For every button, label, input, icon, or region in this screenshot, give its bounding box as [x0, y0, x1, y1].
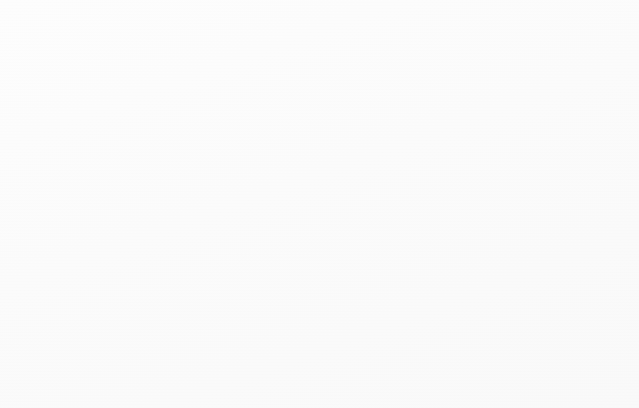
x-tick-label: OK — [295, 353, 408, 371]
bar-slot — [295, 78, 408, 349]
clipped-body-text-line: something for musicians? — [6, 0, 247, 10]
x-tick-label-line: All right — [440, 354, 488, 370]
x-tick-label-line: Interesting and — [77, 354, 173, 370]
x-tick-label-line: Boring — [556, 354, 598, 370]
y-tick-label: 16 — [23, 69, 59, 87]
x-tick-label-line: Good — [220, 354, 255, 370]
y-tick-label: 0 — [23, 340, 59, 358]
y-tick-label: 2 — [23, 306, 59, 324]
y-axis: 1614121086420 — [23, 78, 59, 349]
x-tick-label-line: OK — [341, 354, 362, 370]
y-tick-label: 14 — [23, 103, 59, 121]
x-tick-label: Interesting andenjoyable — [69, 353, 182, 389]
y-tick-label: 8 — [23, 205, 59, 223]
x-tick-label-line: enjoyable — [69, 371, 182, 389]
bar-slot — [182, 78, 295, 349]
x-tick-label: Boring — [520, 353, 633, 371]
x-tick-label: All right — [407, 353, 520, 371]
clipped-body-text: something for musicians? — [0, 0, 639, 11]
bar-slot — [407, 78, 520, 349]
y-tick-label: 4 — [23, 272, 59, 290]
bar-series — [69, 78, 633, 349]
chart-title: Did you find the music workshop ... — [7, 27, 638, 58]
bar[interactable] — [92, 112, 158, 349]
x-axis: Interesting andenjoyableGoodOKAll rightB… — [69, 353, 633, 403]
axis-baseline — [69, 349, 633, 350]
y-tick-label: 6 — [23, 238, 59, 256]
x-tick-label: Good — [182, 353, 295, 371]
y-tick-label: 12 — [23, 137, 59, 155]
bar-slot — [520, 78, 633, 349]
chart-container: Did you find the music workshop ... 1614… — [6, 12, 637, 406]
bar-slot — [69, 78, 182, 349]
y-tick-label: 10 — [23, 171, 59, 189]
bar[interactable] — [318, 332, 384, 349]
bar[interactable] — [205, 315, 271, 349]
plot-area — [69, 78, 633, 349]
